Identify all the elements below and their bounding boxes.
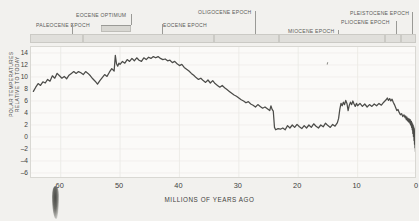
eocene-optimum-bracket — [101, 25, 131, 26]
temperature-curve-svg — [31, 47, 416, 178]
epoch-bar-pliocene-epoch[interactable] — [385, 34, 401, 43]
y-tick-label: –6 — [0, 169, 28, 176]
epoch-leader-line — [255, 11, 256, 34]
y-axis-title: POLAR TEMPERATURES RELATIVE TO TODAY — [8, 42, 20, 126]
figure-root: PALEOCENE EPOCHEOCENE OPTIMUMEOCENE EPOC… — [0, 0, 419, 221]
y-tick-label: –4 — [0, 157, 28, 164]
epoch-label-eocene-optimum: EOCENE OPTIMUM — [76, 12, 126, 18]
epoch-leader-line — [72, 24, 73, 34]
x-tick-label: 40 — [174, 182, 182, 190]
epoch-bar-oligocene-epoch[interactable] — [214, 34, 279, 43]
x-tick-label: 20 — [293, 182, 301, 190]
epoch-leader-line — [412, 12, 413, 34]
y-tick-label: 0 — [0, 133, 28, 140]
x-axis-title: MILLIONS OF YEARS AGO — [0, 196, 419, 203]
epoch-bar-eocene-optimum[interactable] — [101, 25, 131, 32]
plot-area — [30, 46, 416, 178]
epoch-bar-miocene-epoch[interactable] — [279, 34, 384, 43]
x-tick-label: 30 — [234, 182, 242, 190]
x-tick-label: 50 — [115, 182, 123, 190]
epoch-label-pliocene-epoch: PLIOCENE EPOCH — [341, 19, 390, 25]
y-tick-label: –2 — [0, 145, 28, 152]
epoch-label-paleocene-epoch: PALEOCENE EPOCH — [36, 22, 90, 28]
x-tick-label: 10 — [352, 182, 360, 190]
epoch-bar-pleistocene-epoch[interactable] — [401, 34, 416, 43]
epoch-label-miocene-epoch: MIOCENE EPOCH — [288, 28, 334, 34]
epoch-leader-line — [338, 30, 339, 34]
epoch-label-pleistocene-epoch: PLEISTOCENE EPOCH — [350, 10, 409, 16]
epoch-label-eocene-epoch: EOCENE EPOCH — [163, 22, 207, 28]
x-tick-label: 0 — [414, 182, 418, 190]
epoch-leader-line — [162, 24, 163, 34]
epoch-label-oligocene-epoch: OLIGOCENE EPOCH — [198, 9, 251, 15]
epoch-timeline: PALEOCENE EPOCHEOCENE OPTIMUMEOCENE EPOC… — [0, 0, 419, 46]
page-smudge-artifact — [52, 186, 59, 219]
epoch-bar-paleocene-epoch[interactable] — [30, 34, 83, 43]
epoch-bar-eocene-epoch[interactable] — [83, 34, 214, 43]
epoch-leader-line — [131, 14, 132, 25]
epoch-leader-line — [396, 21, 397, 34]
